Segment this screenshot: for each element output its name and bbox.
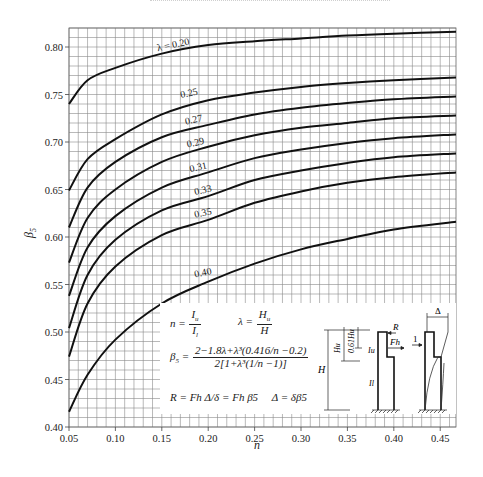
curve-labels: λ = 0.200.250.270.290.310.330.350.40 (156, 36, 216, 281)
beta-fraction: 2−1.8λ+λ³(0.416/n −0.2) 2[1+λ³(1/n −1)] (193, 345, 308, 369)
n-den-sub: l (196, 331, 198, 339)
y-tick-label: 0.70 (45, 137, 63, 148)
x-axis-title: n (254, 438, 260, 452)
x-tick-label: 0.30 (292, 433, 310, 444)
r-formula-text: R = Fh Δ/δ = Fh β5 (170, 391, 258, 403)
x-tick-label: 0.35 (338, 433, 356, 444)
diagram-label-unit-force: 1 (413, 334, 418, 344)
diagram-label-H: H (317, 364, 326, 375)
n-lhs: n = (170, 317, 186, 329)
stepped-column-right (425, 332, 441, 410)
ground-hatch-right (418, 410, 447, 413)
diagram-label-delta: Δ (435, 306, 441, 316)
n-fraction: Iu Il (189, 309, 200, 339)
curve-λ=0.20 (69, 32, 456, 104)
lambda-num: H (259, 308, 267, 320)
x-tick-label: 0.15 (153, 433, 171, 444)
column-diagram: H Hu 0.61Hu Iu Il R Fh 1 (310, 303, 450, 414)
diagram-label-Iu: Iu (367, 346, 375, 355)
y-tick-label: 0.45 (45, 375, 63, 386)
deflected-shape (425, 332, 448, 410)
y-tick-label: 0.80 (45, 42, 63, 53)
lambda-definition: λ = Hu H (238, 309, 273, 336)
r-formula: R = Fh Δ/δ = Fh β5 Δ = δβ5 (170, 391, 307, 403)
x-tick-label: 0.45 (431, 433, 449, 444)
x-tick-label: 0.10 (106, 433, 124, 444)
x-tick-label: 0.40 (385, 433, 403, 444)
formula-legend-box: n = Iu Il λ = Hu H β5 = 2−1.8λ+λ³(0.416/… (160, 303, 456, 414)
ground-hatch-left (371, 410, 400, 413)
curve-λ=0.31 (69, 134, 456, 296)
lambda-lhs: λ = (238, 315, 253, 327)
lambda-num-sub: u (267, 315, 271, 323)
y-tick-label: 0.40 (45, 422, 63, 433)
x-tick-label: 0.20 (199, 433, 217, 444)
diagram-label-Il: Il (368, 379, 375, 388)
x-tick-label: 0.05 (60, 433, 78, 444)
lambda-fraction: Hu H (257, 309, 272, 336)
y-tick-label: 0.65 (45, 185, 63, 196)
lambda-den: H (258, 325, 270, 337)
y-axis-title: β5 (22, 228, 38, 239)
diagram-label-Fh: Fh (389, 337, 400, 347)
delta-formula-text: Δ = δβ5 (272, 391, 307, 403)
beta5-formula: β5 = 2−1.8λ+λ³(0.416/n −0.2) 2[1+λ³(1/n … (170, 345, 309, 369)
n-num-sub: u (195, 315, 199, 323)
y-tick-label: 0.75 (45, 90, 63, 101)
curve-λ=0.33 (69, 153, 456, 328)
diagram-label-R: R (392, 322, 399, 332)
beta-numerator: 2−1.8λ+λ³(0.416/n −0.2) (193, 345, 308, 358)
diagram-label-Hu: Hu (333, 343, 342, 354)
diagram-label-061Hu: 0.61Hu (347, 329, 356, 353)
beta-denominator: 2[1+λ³(1/n −1)] (213, 358, 289, 370)
y-tick-label: 0.50 (45, 327, 63, 338)
n-definition: n = Iu Il (170, 309, 202, 339)
beta-eq: = (182, 350, 189, 362)
y-tick-label: 0.60 (45, 232, 63, 243)
y-tick-label: 0.55 (45, 280, 63, 291)
beta-lhs-sub: 5 (175, 357, 179, 365)
